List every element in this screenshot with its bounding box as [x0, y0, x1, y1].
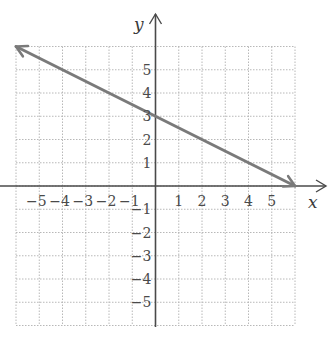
x-tick-label: 2 [198, 193, 207, 209]
coordinate-plane: −5−4−3−2−112345 −5−4−3−2−112345 x y [0, 0, 333, 348]
y-tick-label: 5 [143, 62, 152, 78]
y-tick-label: 1 [143, 155, 152, 171]
y-axis-label: y [133, 14, 144, 34]
x-axis-label: x [308, 192, 318, 212]
x-tick-label: 5 [267, 193, 276, 209]
x-tick-label: −4 [49, 193, 70, 209]
y-tick-label: −3 [131, 248, 152, 264]
y-tick-label: −4 [131, 271, 152, 287]
x-tick-label: −3 [72, 193, 93, 209]
y-tick-label: −5 [131, 294, 152, 310]
x-tick-label: −2 [96, 193, 117, 209]
axes [0, 14, 326, 327]
x-tick-label: 1 [174, 193, 183, 209]
y-tick-label: 4 [143, 85, 152, 101]
y-tick-label: 2 [143, 132, 152, 148]
x-tick-label: 3 [221, 193, 230, 209]
x-tick-label: 4 [244, 193, 253, 209]
x-tick-label: −5 [26, 193, 47, 209]
y-tick-label: −2 [131, 225, 152, 241]
y-tick-label: −1 [131, 201, 152, 217]
y-tick-label: 3 [143, 108, 152, 124]
